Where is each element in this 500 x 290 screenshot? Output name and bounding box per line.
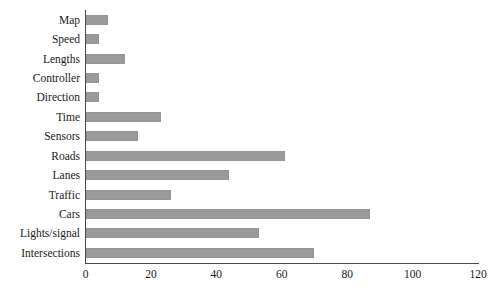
bar-row — [86, 224, 479, 243]
bar-speed — [86, 34, 99, 44]
category-label-cars: Cars — [0, 208, 80, 220]
category-label-lengths: Lengths — [0, 53, 80, 65]
bar-row — [86, 243, 479, 262]
bar-row — [86, 88, 479, 107]
x-tick-0: 0 — [83, 268, 89, 280]
bar-row — [86, 185, 479, 204]
bar-traffic — [86, 190, 171, 200]
category-label-map: Map — [0, 14, 80, 26]
bar-lights-signal — [86, 228, 259, 238]
x-tick-100: 100 — [404, 268, 421, 280]
category-label-intersections: Intersections — [0, 247, 80, 259]
bar-lengths — [86, 54, 125, 64]
category-label-controller: Controller — [0, 72, 80, 84]
x-tick-60: 60 — [276, 268, 288, 280]
x-tick-20: 20 — [145, 268, 157, 280]
bar-direction — [86, 92, 99, 102]
bar-intersections — [86, 248, 315, 258]
bar-row — [86, 204, 479, 223]
category-label-traffic: Traffic — [0, 189, 80, 201]
bar-chart: MapSpeedLengthsControllerDirectionTimeSe… — [0, 0, 500, 290]
bar-row — [86, 127, 479, 146]
bar-row — [86, 10, 479, 29]
bar-roads — [86, 151, 286, 161]
bar-row — [86, 146, 479, 165]
x-tick-120: 120 — [469, 268, 486, 280]
bar-sensors — [86, 131, 138, 141]
category-label-lanes: Lanes — [0, 169, 80, 181]
category-label-direction: Direction — [0, 91, 80, 103]
x-tick-40: 40 — [211, 268, 223, 280]
bar-row — [86, 107, 479, 126]
bar-row — [86, 68, 479, 87]
bar-row — [86, 165, 479, 184]
bar-cars — [86, 209, 371, 219]
bar-row — [86, 49, 479, 68]
bar-map — [86, 15, 109, 25]
category-label-time: Time — [0, 111, 80, 123]
bar-lanes — [86, 170, 230, 180]
x-tick-80: 80 — [341, 268, 353, 280]
plot-area — [86, 10, 479, 263]
category-label-speed: Speed — [0, 33, 80, 45]
bar-controller — [86, 73, 99, 83]
category-label-sensors: Sensors — [0, 130, 80, 142]
category-label-roads: Roads — [0, 150, 80, 162]
category-label-lights-signal: Lights/signal — [0, 227, 80, 239]
bar-row — [86, 29, 479, 48]
bar-time — [86, 112, 161, 122]
